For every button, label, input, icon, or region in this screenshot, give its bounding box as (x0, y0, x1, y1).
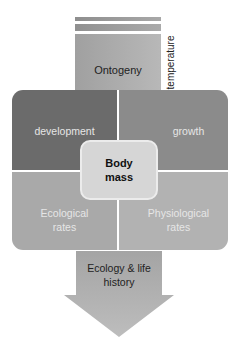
development-label: development (12, 125, 117, 138)
physiological-rates-label-2: rates (129, 221, 228, 234)
ontogeny-box (75, 34, 161, 90)
temperature-label: temperature (166, 35, 177, 89)
growth-label: growth (149, 125, 228, 138)
ecological-rates-label-1: Ecological (12, 207, 117, 220)
physiological-rates-label-1: Physiological (129, 207, 228, 220)
ecology-label-1: Ecology & life (76, 261, 162, 275)
ecological-rates-label-2: rates (12, 221, 117, 234)
body-mass-label-1: Body (105, 157, 133, 169)
body-mass-label-2: mass (105, 171, 133, 183)
ecology-life-history-label: Ecology & life history (76, 261, 162, 289)
ontogeny-label: Ontogeny (75, 64, 161, 76)
ecology-label-2: history (76, 275, 162, 289)
body-mass-box: Body mass (80, 140, 158, 200)
input-bar-thin (75, 17, 161, 21)
input-bar (75, 24, 161, 31)
temperature-label-container: temperature (164, 34, 178, 90)
